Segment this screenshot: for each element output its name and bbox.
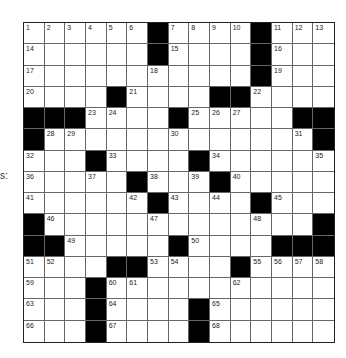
grid-cell[interactable]: 19 [272, 66, 293, 87]
grid-cell[interactable] [210, 214, 231, 235]
grid-cell[interactable]: 34 [210, 151, 231, 172]
grid-cell[interactable]: 59 [24, 278, 45, 299]
grid-cell[interactable]: 55 [251, 257, 272, 278]
grid-cell[interactable]: 35 [313, 151, 334, 172]
grid-cell[interactable] [251, 172, 272, 193]
grid-cell[interactable]: 17 [24, 66, 45, 87]
grid-cell[interactable]: 63 [24, 299, 45, 320]
grid-cell[interactable] [45, 44, 66, 65]
grid-cell[interactable] [272, 129, 293, 150]
grid-cell[interactable]: 30 [169, 129, 190, 150]
grid-cell[interactable] [65, 193, 86, 214]
grid-cell[interactable] [127, 66, 148, 87]
grid-cell[interactable] [231, 214, 252, 235]
grid-cell[interactable]: 6 [127, 23, 148, 44]
grid-cell[interactable] [86, 44, 107, 65]
grid-cell[interactable]: 56 [272, 257, 293, 278]
grid-cell[interactable] [293, 151, 314, 172]
grid-cell[interactable] [107, 129, 128, 150]
grid-cell[interactable]: 57 [293, 257, 314, 278]
grid-cell[interactable] [45, 66, 66, 87]
grid-cell[interactable] [107, 172, 128, 193]
grid-cell[interactable] [65, 214, 86, 235]
grid-cell[interactable]: 8 [189, 23, 210, 44]
grid-cell[interactable] [65, 257, 86, 278]
grid-cell[interactable] [293, 87, 314, 108]
grid-cell[interactable] [251, 236, 272, 257]
grid-cell[interactable]: 41 [24, 193, 45, 214]
grid-cell[interactable]: 32 [24, 151, 45, 172]
grid-cell[interactable]: 15 [169, 44, 190, 65]
grid-cell[interactable] [169, 321, 190, 342]
grid-cell[interactable]: 7 [169, 23, 190, 44]
grid-cell[interactable]: 48 [251, 214, 272, 235]
grid-cell[interactable] [169, 151, 190, 172]
grid-cell[interactable] [293, 44, 314, 65]
grid-cell[interactable]: 24 [107, 108, 128, 129]
grid-cell[interactable] [45, 172, 66, 193]
grid-cell[interactable] [251, 321, 272, 342]
grid-cell[interactable] [189, 193, 210, 214]
grid-cell[interactable] [65, 299, 86, 320]
grid-cell[interactable] [45, 278, 66, 299]
grid-cell[interactable] [65, 321, 86, 342]
grid-cell[interactable]: 40 [231, 172, 252, 193]
grid-cell[interactable] [272, 108, 293, 129]
grid-cell[interactable] [231, 151, 252, 172]
grid-cell[interactable] [189, 87, 210, 108]
grid-cell[interactable] [65, 66, 86, 87]
grid-cell[interactable]: 4 [86, 23, 107, 44]
grid-cell[interactable]: 13 [313, 23, 334, 44]
grid-cell[interactable]: 1 [24, 23, 45, 44]
grid-cell[interactable]: 68 [210, 321, 231, 342]
grid-cell[interactable] [251, 299, 272, 320]
grid-cell[interactable] [148, 87, 169, 108]
grid-cell[interactable]: 2 [45, 23, 66, 44]
grid-cell[interactable] [272, 87, 293, 108]
grid-cell[interactable] [107, 193, 128, 214]
grid-cell[interactable] [65, 151, 86, 172]
grid-cell[interactable]: 21 [127, 87, 148, 108]
grid-cell[interactable]: 22 [251, 87, 272, 108]
grid-cell[interactable]: 54 [169, 257, 190, 278]
grid-cell[interactable] [313, 66, 334, 87]
grid-cell[interactable] [86, 236, 107, 257]
grid-cell[interactable] [86, 214, 107, 235]
grid-cell[interactable] [127, 321, 148, 342]
grid-cell[interactable] [251, 129, 272, 150]
grid-cell[interactable] [86, 193, 107, 214]
grid-cell[interactable] [313, 299, 334, 320]
grid-cell[interactable]: 49 [65, 236, 86, 257]
grid-cell[interactable] [107, 44, 128, 65]
grid-cell[interactable] [127, 151, 148, 172]
grid-cell[interactable] [127, 299, 148, 320]
grid-cell[interactable] [293, 193, 314, 214]
grid-cell[interactable] [65, 87, 86, 108]
grid-cell[interactable] [107, 236, 128, 257]
grid-cell[interactable] [169, 87, 190, 108]
grid-cell[interactable]: 45 [272, 193, 293, 214]
grid-cell[interactable] [127, 129, 148, 150]
grid-cell[interactable] [272, 278, 293, 299]
grid-cell[interactable]: 33 [107, 151, 128, 172]
grid-cell[interactable] [127, 214, 148, 235]
grid-cell[interactable]: 53 [148, 257, 169, 278]
grid-cell[interactable]: 46 [45, 214, 66, 235]
grid-cell[interactable] [251, 108, 272, 129]
grid-cell[interactable] [210, 44, 231, 65]
grid-cell[interactable] [313, 44, 334, 65]
grid-cell[interactable] [293, 299, 314, 320]
grid-cell[interactable]: 11 [272, 23, 293, 44]
grid-cell[interactable]: 26 [210, 108, 231, 129]
grid-cell[interactable] [127, 236, 148, 257]
grid-cell[interactable] [127, 44, 148, 65]
grid-cell[interactable] [189, 66, 210, 87]
grid-cell[interactable] [45, 299, 66, 320]
grid-cell[interactable] [169, 214, 190, 235]
grid-cell[interactable] [65, 172, 86, 193]
grid-cell[interactable] [148, 278, 169, 299]
grid-cell[interactable]: 18 [148, 66, 169, 87]
grid-cell[interactable] [86, 257, 107, 278]
grid-cell[interactable] [169, 172, 190, 193]
grid-cell[interactable]: 36 [24, 172, 45, 193]
